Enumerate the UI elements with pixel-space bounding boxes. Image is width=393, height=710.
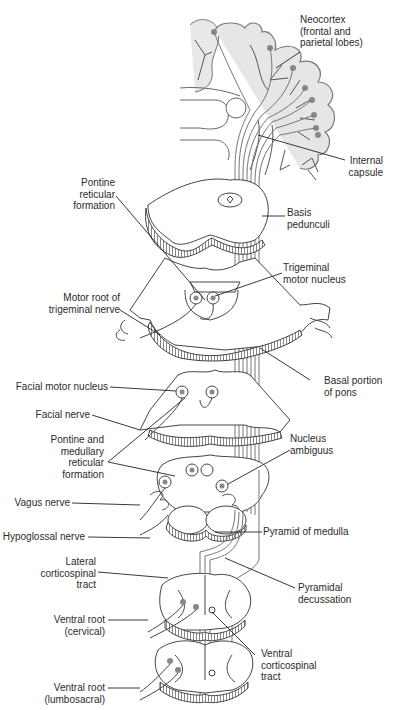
label-internal-capsule: Internal capsule bbox=[349, 155, 383, 178]
label-motor-root-trigeminal-nerve: Motor root of trigeminal nerve bbox=[49, 292, 120, 315]
label-pyramid-of-medulla: Pyramid of medulla bbox=[263, 526, 349, 538]
label-ventral-corticospinal-tract: Ventral corticospinal tract bbox=[261, 648, 317, 683]
label-neocortex: Neocortex (frontal and parietal lobes) bbox=[300, 14, 363, 49]
label-nucleus-ambiguus: Nucleus ambiguus bbox=[290, 433, 333, 456]
medulla-section bbox=[140, 455, 269, 541]
label-pontine-medullary-reticular-formation: Pontine and medullary reticular formatio… bbox=[51, 434, 104, 480]
label-facial-motor-nucleus: Facial motor nucleus bbox=[16, 381, 108, 393]
label-basal-portion-of-pons: Basal portion of pons bbox=[324, 375, 382, 398]
label-hypoglossal-nerve: Hypoglossal nerve bbox=[3, 531, 85, 543]
label-pyramidal-decussation: Pyramidal decussation bbox=[298, 582, 351, 605]
lower-pons-section bbox=[140, 370, 290, 446]
label-basis-pedunculi: Basis pedunculi bbox=[287, 207, 330, 230]
label-ventral-root-cervical: Ventral root (cervical) bbox=[54, 614, 105, 637]
label-vagus-nerve: Vagus nerve bbox=[15, 497, 70, 509]
cervical-cord-section bbox=[148, 573, 251, 640]
lumbosacral-cord-section bbox=[140, 641, 253, 703]
label-lateral-corticospinal-tract: Lateral corticospinal tract bbox=[40, 556, 96, 591]
midbrain-section bbox=[146, 179, 269, 257]
label-ventral-root-lumbosacral: Ventral root (lumbosacral) bbox=[44, 682, 105, 705]
label-trigeminal-motor-nucleus: Trigeminal motor nucleus bbox=[283, 262, 346, 285]
label-facial-nerve: Facial nerve bbox=[36, 409, 90, 421]
label-pontine-reticular-formation: Pontine reticular formation bbox=[73, 177, 115, 212]
